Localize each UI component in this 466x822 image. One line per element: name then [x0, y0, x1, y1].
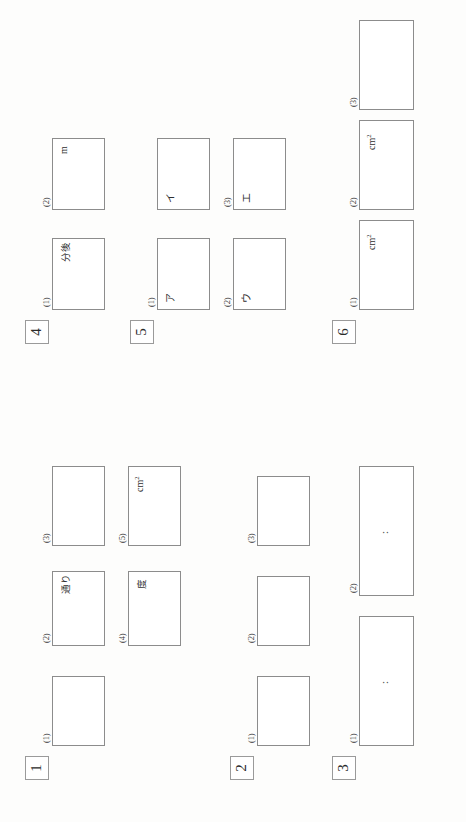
- sublabel-1-2: (2): [41, 634, 51, 643]
- sublabel-4-2: (2): [41, 198, 51, 207]
- sublabel-4-1: (1): [41, 298, 51, 307]
- section-number-5: 5: [130, 320, 154, 344]
- answer-box-6-3[interactable]: [359, 20, 414, 110]
- section-number-4: 4: [25, 320, 49, 344]
- sublabel-5-3: (2): [222, 298, 232, 307]
- sublabel-6-3: (3): [348, 98, 358, 107]
- sublabel-2-3: (3): [246, 534, 256, 543]
- prompt-char-5-3: ウ: [238, 293, 253, 303]
- unit-label-4-1: 分後: [58, 242, 72, 262]
- sublabel-3-1: (1): [348, 734, 358, 743]
- sublabel-6-1: (1): [348, 298, 358, 307]
- answer-box-6-1[interactable]: [359, 220, 414, 310]
- sublabel-5-4: (3): [222, 198, 232, 207]
- sublabel-1-4: (4): [117, 634, 127, 643]
- unit-label-6-1: cm2: [365, 235, 377, 250]
- ratio-colon-3-2: :: [378, 531, 390, 534]
- prompt-char-5-1: ア: [162, 293, 177, 303]
- answer-box-1-1[interactable]: [52, 676, 105, 746]
- sublabel-6-2: (2): [348, 198, 358, 207]
- answer-box-2-1[interactable]: [257, 676, 310, 746]
- section-number-6: 6: [332, 320, 356, 344]
- sublabel-1-5: (5): [117, 534, 127, 543]
- answer-box-6-2[interactable]: [359, 120, 414, 210]
- section-number-2: 2: [230, 756, 254, 780]
- unit-label-4-2: m: [58, 146, 69, 154]
- answer-sheet-page: 1 (1) (2) 通り (3) (4) 度 (5) cm2 2 (1): [0, 0, 466, 822]
- rotated-page-content: 1 (1) (2) 通り (3) (4) 度 (5) cm2 2 (1): [0, 0, 466, 822]
- unit-label-1-5: cm2: [133, 477, 145, 492]
- section-number-3: 3: [332, 756, 356, 780]
- sublabel-1-3: (3): [41, 534, 51, 543]
- unit-label-1-2: 通り: [58, 574, 72, 594]
- sublabel-5-1: (1): [146, 298, 156, 307]
- answer-box-2-2[interactable]: [257, 576, 310, 646]
- sublabel-3-2: (2): [348, 584, 358, 593]
- sublabel-2-2: (2): [246, 634, 256, 643]
- section-number-1: 1: [25, 756, 49, 780]
- unit-label-1-4: 度: [134, 579, 148, 589]
- answer-box-2-3[interactable]: [257, 476, 310, 546]
- prompt-char-5-2: イ: [162, 193, 177, 203]
- answer-box-1-3[interactable]: [52, 466, 105, 546]
- prompt-char-5-4: エ: [238, 193, 253, 203]
- ratio-colon-3-1: :: [378, 681, 390, 684]
- unit-label-6-2: cm2: [365, 135, 377, 150]
- sublabel-1-1: (1): [41, 734, 51, 743]
- sublabel-2-1: (1): [246, 734, 256, 743]
